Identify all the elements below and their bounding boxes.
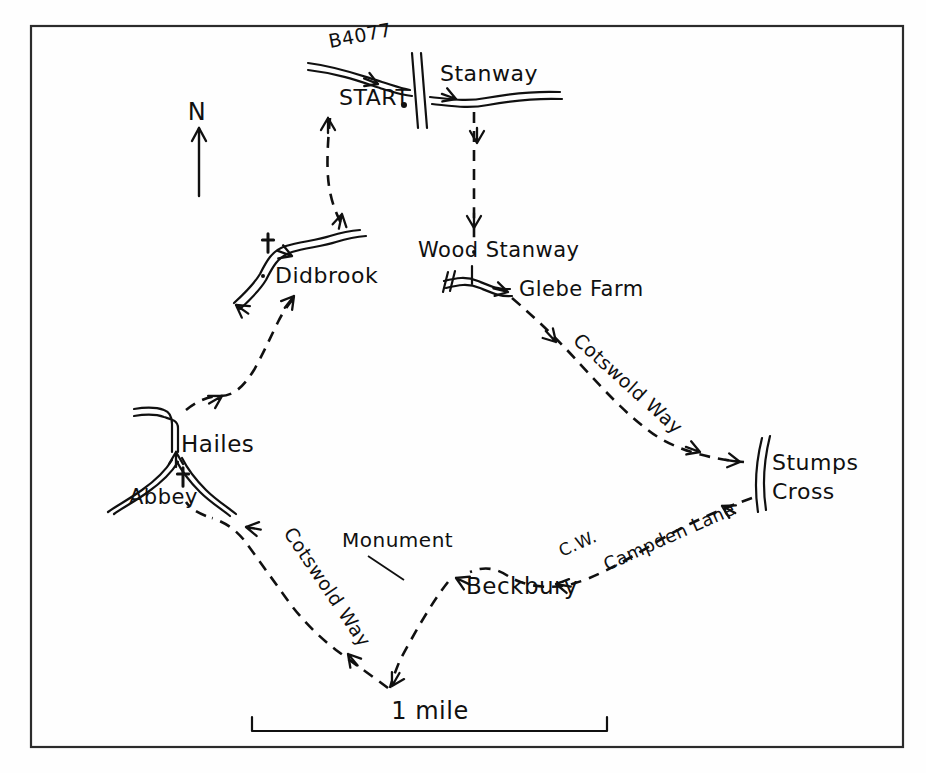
map-label-didbrook: Didbrook bbox=[275, 263, 378, 288]
paper-background bbox=[0, 0, 926, 773]
scale-bar-label: 1 mile bbox=[391, 697, 468, 725]
north-arrow-label: N bbox=[188, 98, 206, 126]
map-label-start: START bbox=[339, 85, 409, 110]
map-label-stanway: Stanway bbox=[440, 61, 538, 86]
didbrook-dot bbox=[261, 274, 265, 278]
map-label-abbey: Abbey bbox=[129, 485, 198, 509]
sketch-map-drawing: STARTB4077StanwayDidbrookWood StanwayGle… bbox=[0, 0, 926, 773]
map-label-stumps-cross-1: Stumps bbox=[772, 450, 858, 475]
map-label-wood-stanway: Wood Stanway bbox=[418, 238, 579, 262]
map-label-monument: Monument bbox=[342, 528, 453, 552]
map-label-beckbury: Beckbury bbox=[466, 573, 578, 599]
map-canvas: STARTB4077StanwayDidbrookWood StanwayGle… bbox=[0, 0, 926, 773]
map-label-glebe-farm: Glebe Farm bbox=[519, 277, 644, 301]
map-label-stumps-cross-2: Cross bbox=[772, 479, 835, 504]
map-label-hailes: Hailes bbox=[181, 431, 254, 457]
